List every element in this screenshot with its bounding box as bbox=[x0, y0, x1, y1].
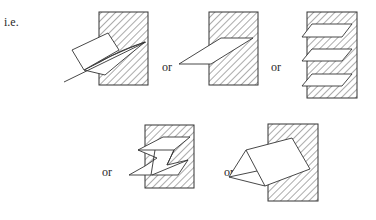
figure-4 bbox=[129, 125, 194, 188]
figure-3 bbox=[302, 12, 357, 98]
figure-1 bbox=[64, 12, 148, 85]
figure-2 bbox=[179, 12, 258, 85]
figure-5 bbox=[229, 124, 318, 201]
diagram-canvas bbox=[0, 0, 376, 220]
